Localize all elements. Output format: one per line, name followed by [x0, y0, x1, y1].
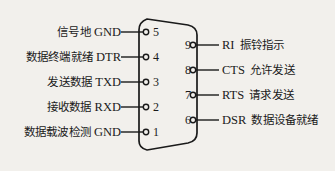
- pin-number-6: 6: [183, 114, 191, 126]
- pin-circle-2: [143, 104, 148, 109]
- pin-label-9-abbr: RI: [222, 38, 235, 52]
- pin-label-5: 信号地GND: [57, 26, 121, 39]
- pin-number-8: 8: [183, 64, 191, 76]
- pin-label-4: 数据终端就绪DTR: [26, 51, 121, 64]
- pin-label-4-cn: 数据终端就绪: [26, 50, 93, 64]
- pin-circle-7: [190, 92, 195, 97]
- pin-label-3: 发送数据TXD: [47, 76, 121, 89]
- pin-label-6-cn: 数据设备就绪: [251, 113, 318, 127]
- pin-circle-3: [143, 79, 148, 84]
- pin-number-5: 5: [153, 26, 159, 38]
- pin-label-2-abbr: RXD: [95, 100, 121, 114]
- pin-label-8: CTS允许发送: [222, 64, 295, 77]
- pin-label-5-cn: 信号地: [57, 25, 91, 39]
- pin-circle-4: [143, 54, 148, 59]
- pin-number-1: 1: [153, 126, 159, 138]
- pin-label-3-cn: 发送数据: [47, 75, 92, 89]
- pin-label-7-cn: 请求发送: [249, 88, 294, 102]
- pin-circle-5: [143, 29, 148, 34]
- db9-pinout-diagram: 信号地GND 数据终端就绪DTR 发送数据TXD 接收数据RXD 数据载波检测G…: [0, 0, 335, 171]
- pin-label-6: DSR数据设备就绪: [222, 114, 319, 127]
- pin-label-2: 接收数据RXD: [47, 101, 121, 114]
- pin-label-4-abbr: DTR: [96, 50, 121, 64]
- pin-label-8-cn: 允许发送: [250, 63, 295, 77]
- pin-label-8-abbr: CTS: [222, 63, 245, 77]
- pin-label-9-cn: 振铃指示: [240, 38, 285, 52]
- pin-label-7-abbr: RTS: [222, 88, 244, 102]
- pin-label-1: 数据载波检测GND: [24, 126, 121, 139]
- pin-label-3-abbr: TXD: [95, 75, 121, 89]
- pin-circle-8: [190, 67, 195, 72]
- pin-label-9: RI振铃指示: [222, 39, 284, 52]
- pin-label-6-abbr: DSR: [222, 113, 246, 127]
- pin-label-7: RTS请求发送: [222, 89, 294, 102]
- pin-circle-6: [190, 117, 195, 122]
- pin-label-1-abbr: GND: [94, 125, 121, 139]
- pin-label-1-cn: 数据载波检测: [24, 125, 91, 139]
- pin-circle-9: [190, 42, 195, 47]
- pin-number-4: 4: [153, 51, 159, 63]
- pin-circle-1: [143, 129, 148, 134]
- pin-number-9: 9: [183, 39, 191, 51]
- pin-number-7: 7: [183, 89, 191, 101]
- pin-label-2-cn: 接收数据: [47, 100, 92, 114]
- pin-number-2: 2: [153, 101, 159, 113]
- pin-label-5-abbr: GND: [94, 25, 121, 39]
- pin-number-3: 3: [153, 76, 159, 88]
